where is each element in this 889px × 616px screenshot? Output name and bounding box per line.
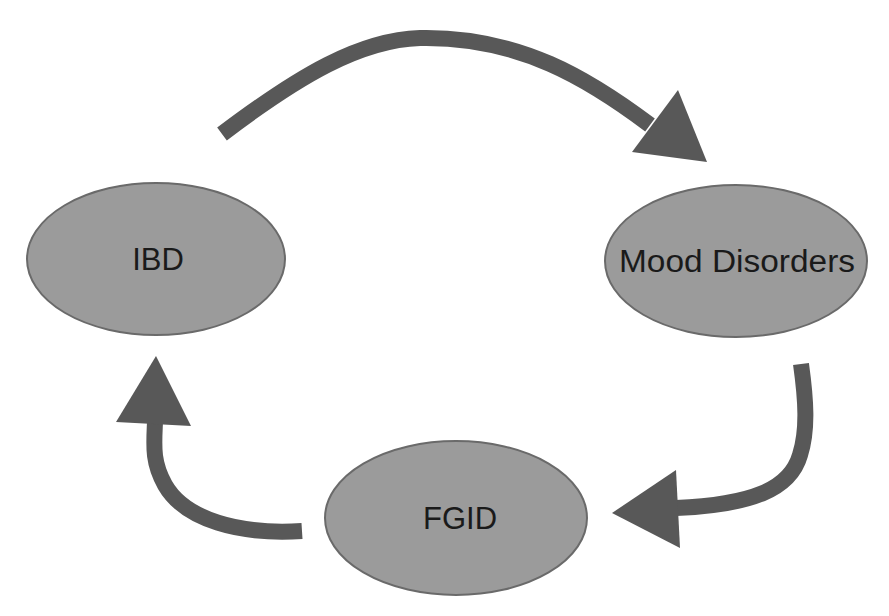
node-mood-disorders: Mood Disorders [605,185,867,337]
node-ibd: IBD [27,183,285,335]
node-ibd-label: IBD [132,242,184,277]
node-mood-disorders-label: Mood Disorders [619,244,855,279]
arrow-ibd-to-mood [222,38,707,162]
arrow-mood-to-fgid [612,364,805,548]
node-fgid: FGID [325,441,587,595]
diagram-canvas: IBD Mood Disorders FGID [0,0,889,616]
arrow-fgid-to-ibd [116,356,302,532]
node-fgid-label: FGID [423,501,497,536]
